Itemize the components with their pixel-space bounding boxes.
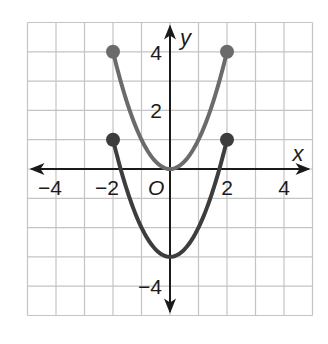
x-axis-label: x: [292, 141, 305, 166]
x-tick-label: −4: [38, 176, 62, 199]
origin-label: O: [148, 176, 164, 199]
x-tick-label: 4: [278, 176, 290, 199]
y-tick-label: 2: [150, 99, 162, 122]
x-tick-label: −2: [95, 176, 119, 199]
closed-endpoint-dot: [220, 45, 234, 59]
y-tick-label: −4: [138, 275, 162, 298]
y-tick-label: 4: [150, 41, 162, 64]
y-axis-label: y: [178, 25, 193, 50]
closed-endpoint-dot: [106, 45, 120, 59]
closed-endpoint-dot: [220, 133, 234, 147]
closed-endpoint-dot: [106, 133, 120, 147]
coordinate-plane: x y O −4−22442−4: [0, 0, 328, 344]
x-tick-label: 2: [221, 176, 233, 199]
